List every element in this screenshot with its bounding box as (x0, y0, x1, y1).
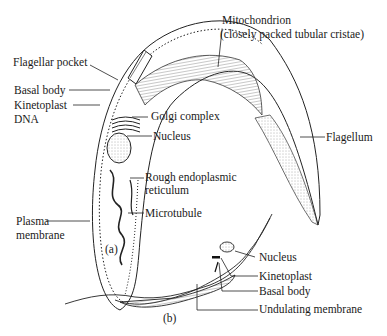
label-microtubule: Microtubule (145, 207, 202, 220)
label-golgi-complex: Golgi complex (151, 110, 220, 123)
label-rer-2: reticulum (145, 184, 189, 197)
label-plasma-membrane-2: membrane (16, 229, 65, 242)
caption-a: (a) (105, 243, 118, 256)
label-plasma-membrane-1: Plasma (16, 215, 49, 228)
label-nucleus-b: Nucleus (259, 251, 297, 264)
label-basal-body: Basal body (14, 84, 65, 97)
label-flagellum: Flagellum (326, 131, 373, 144)
label-kinetoplast-dna-2: DNA (14, 113, 39, 126)
label-nucleus-a: Nucleus (153, 130, 191, 143)
label-mitochondrion-2: (closely packed tubular cristae) (220, 28, 364, 41)
trypanosome-diagram (0, 0, 387, 336)
label-undulating-membrane: Undulating membrane (259, 303, 362, 316)
label-kinetoplast-dna-1: Kinetoplast (14, 99, 67, 112)
panel-a-cell (92, 21, 320, 310)
caption-b: (b) (163, 312, 176, 325)
label-mitochondrion-1: Mitochondrion (222, 14, 291, 27)
label-basal-body-b: Basal body (259, 285, 310, 298)
label-kinetoplast-b: Kinetoplast (259, 270, 312, 283)
label-flagellar-pocket: Flagellar pocket (13, 56, 87, 69)
label-rer-1: Rough endoplasmic (145, 171, 237, 184)
